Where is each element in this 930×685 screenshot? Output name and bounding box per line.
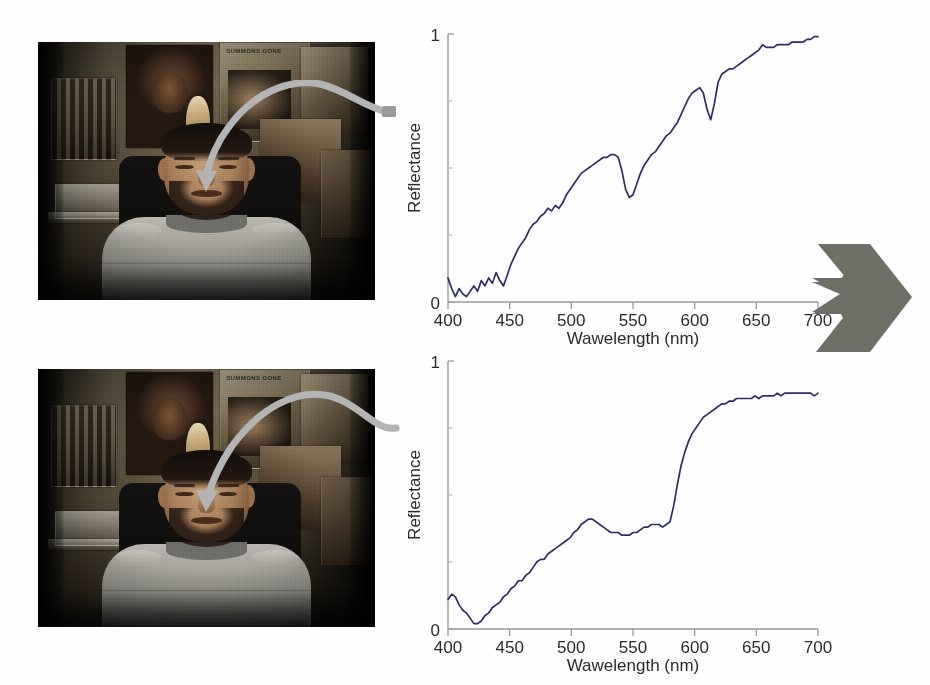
spectrum-chart-upper: 1 0 Reflectance 400 450 500 550 600 650 … [404,14,834,339]
x-axis-title: Wawelength (nm) [567,656,700,675]
subject-person [38,369,375,627]
shadow-right [351,42,375,300]
beard [169,508,243,547]
x-tick-label-700: 700 [804,638,832,657]
y-axis-title: Reflectance [405,123,424,213]
subject-photo-upper: SUMMONS GONE [38,42,375,300]
spectrum-chart-lower: 1 0 Reflectance 400 450 500 550 600 650 … [404,341,834,671]
x-tick-label-650: 650 [742,638,770,657]
double-chevron-arrow [800,228,926,366]
shadow-bottom [38,591,375,627]
y-axis: 1 0 Reflectance [405,353,454,640]
beard [169,181,243,220]
x-tick-label-400: 400 [434,311,462,330]
x-tick-label-600: 600 [681,638,709,657]
x-tick-label-600: 600 [681,311,709,330]
x-tick-label-650: 650 [742,311,770,330]
x-tick-label-500: 500 [557,311,585,330]
photo-scene: SUMMONS GONE [38,42,375,300]
photo-scene: SUMMONS GONE [38,369,375,627]
shadow-left [38,369,62,627]
mouth [191,517,221,524]
spectrum-line [448,37,818,297]
subject-photo-lower: SUMMONS GONE [38,369,375,627]
y-tick-label-1: 1 [431,26,440,45]
eyebrow-left [174,484,194,488]
x-tick-label-450: 450 [496,311,524,330]
y-axis: 1 0 Reflectance [405,26,454,313]
shadow-left [38,42,62,300]
x-tick-label-550: 550 [619,638,647,657]
eyebrow-right [218,484,238,488]
y-axis-title: Reflectance [405,450,424,540]
spectrum-plot-svg: 1 0 Reflectance 400 450 500 550 600 650 … [404,14,834,339]
y-tick-label-1: 1 [431,353,440,372]
figure-root: SUMMONS GONE [0,0,930,685]
eyebrow-left [174,157,194,161]
x-tick-label-400: 400 [434,638,462,657]
mouth [191,190,221,197]
shadow-bottom [38,264,375,300]
spectrum-line [448,393,818,623]
subject-person [38,42,375,300]
x-tick-label-450: 450 [496,638,524,657]
x-tick-label-550: 550 [619,311,647,330]
x-tick-label-500: 500 [557,638,585,657]
double-chevron-svg [800,228,926,366]
eyebrow-right [218,157,238,161]
shadow-right [351,369,375,627]
x-axis: 400 450 500 550 600 650 700 Wawelength (… [434,629,832,675]
spectrum-plot-svg: 1 0 Reflectance 400 450 500 550 600 650 … [404,341,834,671]
